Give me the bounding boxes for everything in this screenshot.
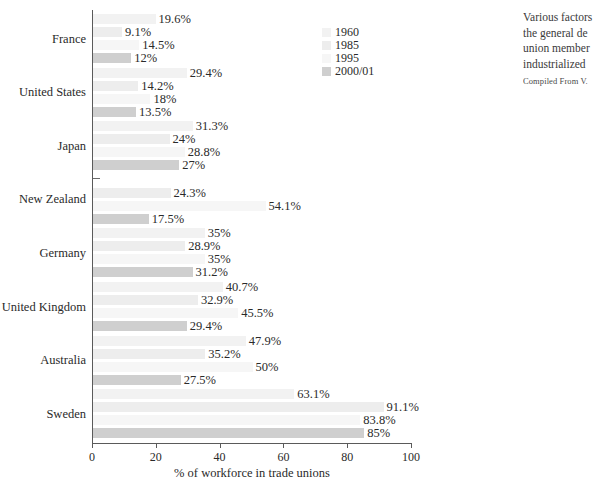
caption-line: the general de xyxy=(523,26,595,42)
legend-row[interactable]: 1960 xyxy=(322,26,412,38)
legend-row[interactable]: 1995 xyxy=(322,52,412,64)
x-axis-tick-label: 100 xyxy=(402,450,420,465)
country-label: New Zealand xyxy=(0,192,86,207)
bar[interactable] xyxy=(93,14,156,24)
legend-swatch xyxy=(322,28,331,37)
bar[interactable] xyxy=(93,121,193,131)
bar[interactable] xyxy=(93,267,193,277)
legend-swatch xyxy=(322,41,331,50)
chart-legend: 1960198519952000/01 xyxy=(322,26,412,78)
country-label: Germany xyxy=(0,246,86,261)
x-axis-tick-label: 40 xyxy=(214,450,226,465)
x-axis-title: % of workforce in trade unions xyxy=(92,466,412,480)
bar-value-label: 50% xyxy=(253,360,279,375)
bar-value-label: 85% xyxy=(364,426,390,441)
legend-swatch xyxy=(322,67,331,76)
bar[interactable] xyxy=(93,349,205,359)
x-axis-tick-label: 60 xyxy=(277,450,289,465)
bar-value-label: 17.5% xyxy=(149,212,184,227)
bar-value-label: 31.2% xyxy=(193,265,228,280)
bar[interactable] xyxy=(93,214,149,224)
bar[interactable] xyxy=(93,201,266,211)
bar[interactable] xyxy=(93,68,187,78)
bar[interactable] xyxy=(93,282,223,292)
bar[interactable] xyxy=(93,295,198,305)
bar-value-label: 13.5% xyxy=(136,105,171,120)
bar[interactable] xyxy=(93,53,131,63)
bar-value-label: 63.1% xyxy=(294,387,329,402)
bar[interactable] xyxy=(93,160,179,170)
x-axis-tick xyxy=(220,443,221,448)
country-label: France xyxy=(0,32,86,47)
bar-value-label: 27.5% xyxy=(181,373,216,388)
side-caption: Various factors the general de union mem… xyxy=(523,10,595,87)
bar-value-label: 27% xyxy=(179,158,205,173)
bar-value-label: 45.5% xyxy=(238,306,273,321)
x-axis-tick xyxy=(347,443,348,448)
legend-label: 2000/01 xyxy=(335,64,374,79)
x-axis-line xyxy=(92,443,412,444)
x-axis-tick xyxy=(411,443,412,448)
caption-line: industrialized xyxy=(523,57,595,73)
bar-value-label: 12% xyxy=(131,51,157,66)
bar[interactable] xyxy=(93,402,384,412)
x-axis-tick xyxy=(283,443,284,448)
bar[interactable] xyxy=(93,188,171,198)
bar[interactable] xyxy=(93,27,122,37)
bar[interactable] xyxy=(93,389,294,399)
x-axis-tick-label: 0 xyxy=(89,450,95,465)
x-axis-tick xyxy=(92,443,93,448)
bar[interactable] xyxy=(93,134,170,144)
bar-value-label: 19.6% xyxy=(156,12,191,27)
legend-row[interactable]: 2000/01 xyxy=(322,65,412,77)
bar-value-label: 47.9% xyxy=(246,334,281,349)
bar-value-label: 31.3% xyxy=(193,119,228,134)
bar[interactable] xyxy=(93,415,360,425)
country-label: Japan xyxy=(0,139,86,154)
country-label: United States xyxy=(0,85,86,100)
bar[interactable] xyxy=(93,428,364,438)
bar[interactable] xyxy=(93,336,246,346)
bar[interactable] xyxy=(93,308,238,318)
bar[interactable] xyxy=(93,81,138,91)
legend-swatch xyxy=(322,54,331,63)
bar-value-label: 24.3% xyxy=(171,186,206,201)
caption-line: Various factors xyxy=(523,10,595,26)
bar[interactable] xyxy=(93,40,139,50)
bar[interactable] xyxy=(93,147,185,157)
country-label: United Kingdom xyxy=(0,300,86,315)
bar[interactable] xyxy=(93,362,253,372)
bar-value-label: 54.1% xyxy=(266,199,301,214)
chart-container: 020406080100 France19.6%9.1%14.5%12%Unit… xyxy=(0,0,440,480)
bar[interactable] xyxy=(93,321,187,331)
caption-source: Compiled From V. xyxy=(523,75,595,87)
no-data-dash-icon xyxy=(93,178,100,179)
bar-value-label: 29.4% xyxy=(187,66,222,81)
caption-line: union member xyxy=(523,41,595,57)
x-axis-tick xyxy=(156,443,157,448)
bar-value-label: 35.2% xyxy=(205,347,240,362)
x-axis-tick-label: 80 xyxy=(341,450,353,465)
legend-row[interactable]: 1985 xyxy=(322,39,412,51)
country-label: Sweden xyxy=(0,407,86,422)
bar[interactable] xyxy=(93,375,181,385)
bar[interactable] xyxy=(93,228,205,238)
bar[interactable] xyxy=(93,254,205,264)
bar[interactable] xyxy=(93,94,150,104)
x-axis-tick-label: 20 xyxy=(150,450,162,465)
country-label: Australia xyxy=(0,353,86,368)
bar-value-label: 32.9% xyxy=(198,293,233,308)
bar-value-label: 29.4% xyxy=(187,319,222,334)
bar[interactable] xyxy=(93,241,185,251)
bar[interactable] xyxy=(93,107,136,117)
